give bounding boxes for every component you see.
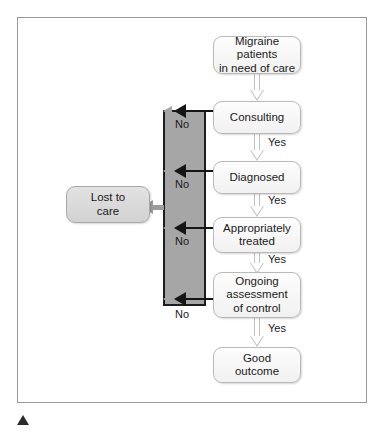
flow-arrow-start-consulting xyxy=(250,74,264,101)
node-lost-to-care-line2: care xyxy=(97,205,119,217)
node-good-outcome[interactable]: Good outcome xyxy=(213,347,301,383)
node-diagnosed[interactable]: Diagnosed xyxy=(213,161,301,194)
node-ongoing-assessment-line2: assessment xyxy=(226,288,287,300)
lost-to-care-arrow-stem xyxy=(152,205,164,210)
no-branch-line-1 xyxy=(186,110,214,112)
no-label-4: No xyxy=(175,308,189,320)
node-migraine-patients-line2: in need of care xyxy=(219,62,295,74)
flow-arrow-treated-ongoing xyxy=(250,253,264,274)
node-appropriately-treated[interactable]: Appropriately treated xyxy=(213,217,301,253)
yes-label-3: Yes xyxy=(268,253,286,265)
node-diagnosed-label: Diagnosed xyxy=(230,171,285,185)
no-label-3: No xyxy=(175,235,189,247)
node-ongoing-assessment-line1: Ongoing xyxy=(235,275,278,287)
node-consulting-label: Consulting xyxy=(230,111,284,125)
decision-column xyxy=(163,110,206,306)
node-migraine-patients-line1: Migraine patients xyxy=(235,35,279,61)
yes-label-4: Yes xyxy=(268,322,286,334)
node-appropriately-treated-line2: treated xyxy=(239,235,275,247)
no-branch-arrow-3 xyxy=(174,221,186,235)
flow-arrow-consulting-diagnosed xyxy=(250,134,264,161)
yes-label-2: Yes xyxy=(268,194,286,206)
no-branch-line-2 xyxy=(186,170,214,172)
no-label-2: No xyxy=(175,178,189,190)
node-ongoing-assessment-line3: of control xyxy=(233,302,280,314)
flow-arrow-diagnosed-treated xyxy=(250,194,264,217)
node-appropriately-treated-line1: Appropriately xyxy=(223,222,291,234)
no-branch-arrow-1 xyxy=(174,104,186,118)
figure-canvas: No No No No Yes Yes Y xyxy=(0,0,388,437)
node-ongoing-assessment[interactable]: Ongoing assessment of control xyxy=(213,272,301,318)
node-good-outcome-line2: outcome xyxy=(235,365,279,377)
yes-label-1: Yes xyxy=(268,136,286,148)
node-migraine-patients[interactable]: Migraine patients in need of care xyxy=(213,36,301,74)
node-lost-to-care[interactable]: Lost to care xyxy=(66,186,150,223)
node-good-outcome-line1: Good xyxy=(243,352,271,364)
no-label-1: No xyxy=(175,118,189,130)
no-branch-arrow-2 xyxy=(174,164,186,178)
no-branch-line-3 xyxy=(186,227,214,229)
node-consulting[interactable]: Consulting xyxy=(213,101,301,134)
node-lost-to-care-line1: Lost to xyxy=(91,191,126,203)
caption-marker-triangle-icon xyxy=(17,415,29,425)
no-branch-line-4 xyxy=(186,298,214,300)
no-branch-arrow-4 xyxy=(174,292,186,306)
flow-arrow-ongoing-outcome xyxy=(250,318,264,347)
